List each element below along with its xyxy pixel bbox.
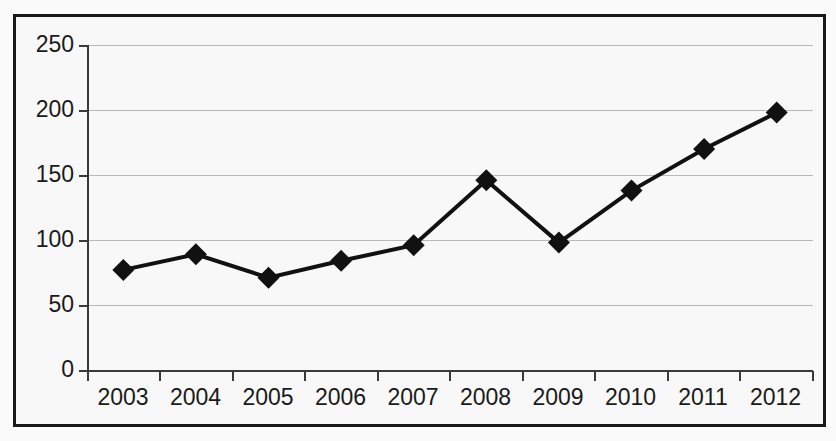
x-axis-tick-5	[449, 371, 451, 381]
x-axis-tick-10	[812, 371, 814, 381]
x-axis-tick-8	[667, 371, 669, 381]
y-axis-label-0: 0	[16, 358, 74, 381]
x-axis-label-2004: 2004	[159, 386, 232, 409]
x-axis-tick-3	[304, 371, 306, 381]
x-axis-label-2005: 2005	[232, 386, 304, 409]
y-axis-label-150: 150	[16, 163, 74, 186]
x-axis-label-2007: 2007	[377, 386, 449, 409]
x-axis-label-2009: 2009	[522, 386, 594, 409]
x-axis-tick-7	[594, 371, 596, 381]
chart-page: 250 200 150 100 50 0 2003 2004 2005 2006…	[0, 0, 836, 441]
y-axis-label-200: 200	[16, 98, 74, 121]
x-axis-label-2011: 2011	[667, 386, 739, 409]
gridline-250	[87, 45, 813, 46]
x-axis-tick-4	[377, 371, 379, 381]
x-axis-tick-2	[232, 371, 234, 381]
x-axis-tick-6	[522, 371, 524, 381]
gridline-100	[87, 240, 813, 241]
x-axis-label-2008: 2008	[449, 386, 522, 409]
y-axis-label-50: 50	[16, 293, 74, 316]
y-axis-label-250: 250	[16, 33, 74, 56]
gridline-200	[87, 110, 813, 111]
y-axis-line	[87, 45, 89, 372]
x-axis-label-2010: 2010	[594, 386, 667, 409]
x-axis-label-2003: 2003	[87, 386, 159, 409]
gridline-150	[87, 175, 813, 176]
x-axis-tick-0	[87, 371, 89, 381]
x-axis-tick-1	[159, 371, 161, 381]
plot-area	[87, 45, 813, 370]
gridline-50	[87, 305, 813, 306]
x-axis-tick-9	[739, 371, 741, 381]
y-axis-labels: 250 200 150 100 50 0	[14, 0, 74, 441]
y-axis-label-100: 100	[16, 228, 74, 251]
x-axis-label-2012: 2012	[739, 386, 812, 409]
x-axis-label-2006: 2006	[304, 386, 377, 409]
